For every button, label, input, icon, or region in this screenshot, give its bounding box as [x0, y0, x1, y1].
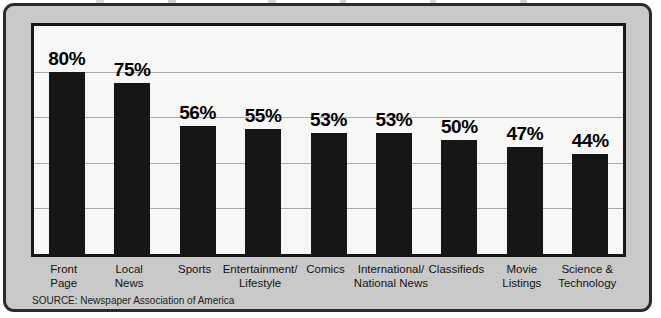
source-note: SOURCE: Newspaper Association of America: [32, 295, 234, 306]
bar: [376, 133, 412, 254]
bar: [507, 147, 543, 254]
chart-figure: 80%75%56%55%53%53%50%47%44% FrontPageLoc…: [3, 3, 652, 312]
bar-group: 47%: [507, 26, 543, 254]
bar: [49, 72, 85, 254]
bar-group: 50%: [441, 26, 477, 254]
bar-value-label: 53%: [299, 109, 359, 131]
bar-group: 56%: [180, 26, 216, 254]
bar-value-label: 56%: [168, 102, 228, 124]
bar-group: 44%: [572, 26, 608, 254]
bar-value-label: 44%: [560, 130, 620, 152]
bar-group: 75%: [114, 26, 150, 254]
bar-group: 53%: [311, 26, 347, 254]
bar-value-label: 47%: [495, 123, 555, 145]
bar: [114, 83, 150, 254]
category-label: Science &Technology: [522, 262, 652, 290]
bar-group: 53%: [376, 26, 412, 254]
bar: [245, 129, 281, 254]
bar-value-label: 50%: [429, 116, 489, 138]
bar: [441, 140, 477, 254]
bar: [311, 133, 347, 254]
bar-group: 80%: [49, 26, 85, 254]
bar: [572, 154, 608, 254]
bar-group: 55%: [245, 26, 281, 254]
bar-value-label: 80%: [37, 48, 97, 70]
bar: [180, 126, 216, 254]
bar-value-label: 75%: [102, 59, 162, 81]
bar-series: 80%75%56%55%53%53%50%47%44%: [34, 26, 623, 254]
category-axis: FrontPageLocalNewsSportsEntertainment/Li…: [31, 262, 626, 298]
bar-value-label: 53%: [364, 109, 424, 131]
plot-area: 80%75%56%55%53%53%50%47%44%: [31, 23, 626, 257]
bar-value-label: 55%: [233, 105, 293, 127]
